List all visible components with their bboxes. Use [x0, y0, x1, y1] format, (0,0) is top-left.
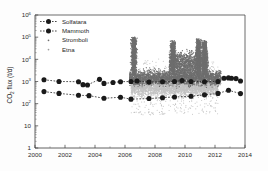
- stromboli-data-point: [190, 56, 191, 57]
- etna-data-point: [185, 85, 186, 86]
- stromboli-data-point: [147, 74, 148, 75]
- etna-data-point: [181, 91, 182, 92]
- stromboli-data-point: [158, 70, 159, 71]
- stromboli-data-point: [177, 63, 178, 64]
- stromboli-data-point: [133, 61, 134, 62]
- stromboli-data-point: [178, 56, 179, 57]
- etna-data-point: [154, 88, 155, 89]
- stromboli-data-point: [182, 73, 183, 74]
- stromboli-data-point: [172, 53, 173, 54]
- legend-solfatara-marker: [46, 19, 51, 24]
- etna-data-point: [205, 89, 206, 90]
- etna-data-point: [135, 89, 136, 90]
- stromboli-data-point: [177, 65, 178, 66]
- etna-data-point: [184, 85, 185, 86]
- stromboli-data-point: [197, 56, 198, 57]
- etna-data-point: [199, 84, 200, 85]
- etna-data-point: [147, 64, 148, 65]
- stromboli-data-point: [142, 86, 143, 87]
- mammoth-data-point: [188, 94, 193, 99]
- etna-data-point: [196, 92, 197, 93]
- stromboli-data-point: [201, 72, 202, 73]
- etna-data-point: [183, 84, 184, 85]
- stromboli-data-point: [159, 71, 160, 72]
- etna-data-point: [142, 92, 143, 93]
- etna-data-point: [168, 87, 169, 88]
- stromboli-data-point: [189, 84, 190, 85]
- stromboli-data-point: [190, 69, 191, 70]
- stromboli-data-point: [199, 55, 200, 56]
- stromboli-data-point: [211, 86, 212, 87]
- stromboli-data-point: [170, 50, 171, 51]
- stromboli-data-point: [191, 52, 192, 53]
- etna-data-point: [167, 91, 168, 92]
- solfatara-data-point: [146, 80, 151, 85]
- stromboli-data-point: [209, 69, 210, 70]
- etna-data-point: [153, 67, 154, 68]
- stromboli-data-point: [176, 61, 177, 62]
- etna-data-point: [131, 86, 132, 87]
- etna-data-point: [157, 94, 158, 95]
- stromboli-data-point: [188, 63, 189, 64]
- stromboli-data-point: [136, 61, 137, 62]
- stromboli-data-point: [170, 80, 171, 81]
- stromboli-data-point: [155, 83, 156, 84]
- stromboli-data-point: [182, 76, 183, 77]
- etna-data-point: [190, 87, 191, 88]
- etna-data-point: [166, 99, 167, 100]
- etna-data-point: [183, 98, 184, 99]
- stromboli-data-point: [179, 62, 180, 63]
- stromboli-data-point: [142, 75, 143, 76]
- stromboli-data-point: [204, 70, 205, 71]
- etna-data-point: [153, 106, 154, 107]
- stromboli-data-point: [200, 70, 201, 71]
- etna-data-point: [188, 90, 189, 91]
- stromboli-data-point: [135, 64, 136, 65]
- etna-data-point: [192, 106, 193, 107]
- etna-data-point: [147, 60, 148, 61]
- stromboli-data-point: [191, 54, 192, 55]
- etna-data-point: [152, 87, 153, 88]
- mammoth-data-point: [160, 95, 165, 100]
- etna-data-point: [211, 88, 212, 89]
- etna-data-point: [138, 94, 139, 95]
- stromboli-data-point: [144, 83, 145, 84]
- mammoth-data-point: [56, 91, 61, 96]
- etna-data-point: [156, 88, 157, 89]
- stromboli-data-point: [150, 77, 151, 78]
- stromboli-data-point: [171, 63, 172, 64]
- etna-data-point: [182, 89, 183, 90]
- etna-data-point: [207, 93, 208, 94]
- etna-data-point: [206, 113, 207, 114]
- stromboli-data-point: [218, 85, 219, 86]
- etna-data-point: [166, 67, 167, 68]
- stromboli-data-point: [183, 68, 184, 69]
- etna-data-point: [194, 92, 195, 93]
- solfatara-data-point: [238, 78, 243, 83]
- stromboli-data-point: [201, 85, 202, 86]
- etna-data-point: [174, 85, 175, 86]
- stromboli-data-point: [206, 72, 207, 73]
- etna-data-point: [150, 103, 151, 104]
- stromboli-data-point: [171, 83, 172, 84]
- stromboli-data-point: [204, 72, 205, 73]
- etna-data-point: [136, 91, 137, 92]
- etna-data-point: [171, 88, 172, 89]
- stromboli-data-point: [188, 86, 189, 87]
- stromboli-data-point: [200, 54, 201, 55]
- etna-data-point: [202, 88, 203, 89]
- stromboli-data-point: [135, 75, 136, 76]
- mammoth-data-point: [215, 91, 220, 96]
- etna-data-point: [145, 93, 146, 94]
- stromboli-data-point: [187, 68, 188, 69]
- etna-data-point: [198, 97, 199, 98]
- etna-data-point: [158, 89, 159, 90]
- solfatara-data-point: [128, 79, 133, 84]
- etna-data-point: [213, 89, 214, 90]
- stromboli-data-point: [196, 59, 197, 60]
- stromboli-data-point: [207, 61, 208, 62]
- etna-data-point: [175, 89, 176, 90]
- etna-data-point: [168, 67, 169, 68]
- stromboli-data-point: [135, 54, 136, 55]
- etna-data-point: [187, 88, 188, 89]
